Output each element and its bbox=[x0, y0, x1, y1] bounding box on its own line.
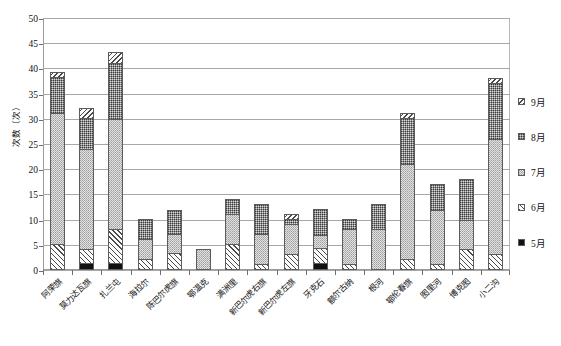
bar-segment-6月[interactable] bbox=[431, 265, 444, 269]
x-tick-slot bbox=[364, 270, 393, 275]
bar-segment-6月[interactable] bbox=[139, 260, 152, 269]
bar-segment-7月[interactable] bbox=[431, 211, 444, 265]
bar-segment-8月[interactable] bbox=[139, 220, 152, 241]
bar-segment-6月[interactable] bbox=[109, 230, 122, 264]
bar-segment-5月[interactable] bbox=[109, 264, 122, 269]
bar-segment-6月[interactable] bbox=[255, 265, 268, 269]
bar-segment-7月[interactable] bbox=[372, 230, 385, 269]
x-axis-tick-label: 扎兰屯 bbox=[99, 278, 122, 301]
bar-segment-8月[interactable] bbox=[460, 180, 473, 221]
x-tick-mark bbox=[481, 270, 482, 275]
x-axis-tick-label: 博克图 bbox=[449, 278, 472, 301]
bar-segment-6月[interactable] bbox=[51, 245, 64, 269]
bar-segment-7月[interactable] bbox=[255, 235, 268, 265]
stacked-bar[interactable] bbox=[167, 210, 182, 270]
x-label-slot: 鄂温克 bbox=[189, 276, 218, 346]
bar-segment-6月[interactable] bbox=[226, 245, 239, 269]
x-label-slot: 莫力达瓦旗 bbox=[72, 276, 101, 346]
stacked-bar[interactable] bbox=[430, 184, 445, 270]
bar-segment-5月[interactable] bbox=[80, 264, 93, 269]
legend-item[interactable]: 8月 bbox=[518, 131, 560, 142]
bar-segment-7月[interactable] bbox=[285, 225, 298, 255]
legend-item[interactable]: 5月 bbox=[518, 237, 560, 248]
bar-segment-7月[interactable] bbox=[109, 120, 122, 230]
bar-segment-8月[interactable] bbox=[401, 119, 414, 165]
legend-item[interactable]: 6月 bbox=[518, 202, 560, 213]
x-tick-slot bbox=[277, 270, 306, 275]
legend-label: 7月 bbox=[531, 165, 546, 179]
bar-segment-8月[interactable] bbox=[255, 205, 268, 235]
bar-segment-6月[interactable] bbox=[460, 250, 473, 269]
bar-segment-8月[interactable] bbox=[226, 200, 239, 215]
stacked-bar[interactable] bbox=[196, 249, 211, 270]
plot-area: 05101520253035404550 bbox=[43, 18, 510, 270]
bar-segment-6月[interactable] bbox=[489, 255, 502, 269]
bar-segment-7月[interactable] bbox=[226, 215, 239, 245]
legend-label: 6月 bbox=[531, 200, 546, 214]
bar-segment-8月[interactable] bbox=[168, 211, 181, 235]
bar-segment-7月[interactable] bbox=[51, 114, 64, 245]
stacked-bar[interactable] bbox=[254, 204, 269, 270]
stacked-bar[interactable] bbox=[284, 214, 299, 270]
bar-segment-8月[interactable] bbox=[343, 220, 356, 230]
stacked-bar[interactable] bbox=[50, 72, 65, 270]
bar-segment-6月[interactable] bbox=[285, 255, 298, 269]
stacked-bar[interactable] bbox=[459, 179, 474, 270]
stacked-bar[interactable] bbox=[371, 204, 386, 270]
x-tick-slot bbox=[72, 270, 101, 275]
stacked-bar[interactable] bbox=[400, 113, 415, 270]
bar-segment-7月[interactable] bbox=[401, 165, 414, 260]
bar-segment-8月[interactable] bbox=[489, 84, 502, 141]
legend-label: 8月 bbox=[531, 130, 546, 144]
bar-segment-8月[interactable] bbox=[80, 119, 93, 150]
x-tick-mark bbox=[72, 270, 73, 275]
stacked-bar[interactable] bbox=[488, 78, 503, 270]
bar-segment-6月[interactable] bbox=[80, 250, 93, 264]
bar-segment-7月[interactable] bbox=[460, 221, 473, 250]
bar-slot bbox=[422, 18, 451, 270]
bar-segment-8月[interactable] bbox=[51, 78, 64, 114]
bar-segment-7月[interactable] bbox=[168, 235, 181, 255]
chart-legend: 9月8月7月6月5月 bbox=[518, 96, 560, 248]
legend-swatch-5月 bbox=[518, 239, 525, 246]
stacked-bar[interactable] bbox=[225, 199, 240, 270]
stacked-bar[interactable] bbox=[342, 219, 357, 270]
stacked-bar[interactable] bbox=[79, 108, 94, 270]
bar-segment-6月[interactable] bbox=[343, 265, 356, 269]
x-tick-slot bbox=[218, 270, 247, 275]
x-tick-slot bbox=[306, 270, 335, 275]
x-tick-mark bbox=[364, 270, 365, 275]
bar-segment-8月[interactable] bbox=[314, 210, 327, 236]
bar-segment-7月[interactable] bbox=[314, 236, 327, 249]
x-tick-mark bbox=[218, 270, 219, 275]
x-label-slot: 阿荣旗 bbox=[43, 276, 72, 346]
stacked-bar[interactable] bbox=[108, 52, 123, 270]
x-tick-mark bbox=[160, 270, 161, 275]
bar-segment-5月[interactable] bbox=[314, 264, 327, 269]
legend-item[interactable]: 7月 bbox=[518, 167, 560, 178]
bar-segment-9月[interactable] bbox=[80, 109, 93, 119]
legend-item[interactable]: 9月 bbox=[518, 96, 560, 107]
bar-group bbox=[43, 18, 510, 270]
x-label-slot: 根河 bbox=[364, 276, 393, 346]
x-axis-tick-label: 阿荣旗 bbox=[41, 278, 64, 301]
bar-segment-8月[interactable] bbox=[109, 64, 122, 119]
bar-segment-7月[interactable] bbox=[343, 230, 356, 265]
x-tick-slot bbox=[422, 270, 451, 275]
bar-segment-6月[interactable] bbox=[168, 254, 181, 269]
x-label-slot: 海拉尔 bbox=[131, 276, 160, 346]
bar-segment-8月[interactable] bbox=[372, 205, 385, 230]
bar-segment-7月[interactable] bbox=[197, 250, 210, 269]
bar-slot bbox=[452, 18, 481, 270]
x-tick-mark bbox=[189, 270, 190, 275]
bar-segment-6月[interactable] bbox=[401, 260, 414, 269]
bar-segment-6月[interactable] bbox=[314, 249, 327, 264]
bar-segment-7月[interactable] bbox=[139, 240, 152, 260]
stacked-bar[interactable] bbox=[138, 219, 153, 270]
bar-segment-8月[interactable] bbox=[431, 185, 444, 211]
bar-segment-9月[interactable] bbox=[109, 53, 122, 64]
bar-segment-7月[interactable] bbox=[489, 140, 502, 254]
stacked-bar[interactable] bbox=[313, 209, 328, 270]
x-axis-labels: 阿荣旗莫力达瓦旗扎兰屯海拉尔陈巴尔虎旗鄂温克满洲里新巴尔虎右旗新巴尔虎左旗牙克石… bbox=[43, 276, 510, 346]
bar-segment-7月[interactable] bbox=[80, 150, 93, 250]
